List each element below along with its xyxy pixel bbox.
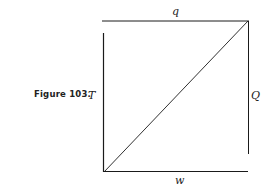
label-w: w bbox=[175, 174, 185, 187]
diagonal-line bbox=[104, 21, 248, 172]
square-diagonal-diagram: q T Q w bbox=[0, 0, 270, 189]
label-T: T bbox=[88, 89, 97, 102]
label-Q: Q bbox=[251, 89, 260, 102]
label-q: q bbox=[172, 5, 179, 18]
